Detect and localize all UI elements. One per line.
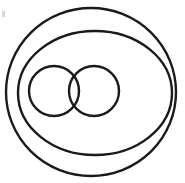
diagram-canvas: Venn-style diagram: two overlapping circ… bbox=[0, 0, 185, 183]
circles-diagram-svg bbox=[0, 0, 185, 183]
corner-speck-artifact bbox=[2, 11, 5, 17]
